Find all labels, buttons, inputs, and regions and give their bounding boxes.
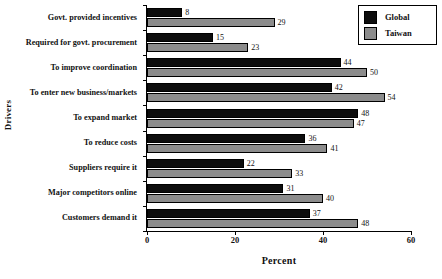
bar-value-label: 22: [247, 160, 255, 168]
bar-value-label: 48: [361, 220, 369, 228]
bar-taiwan: [147, 68, 367, 77]
bar-global: [147, 33, 213, 42]
y-axis-tick: [143, 55, 147, 56]
bar-value-label: 44: [344, 59, 352, 67]
category-label: Customers demand it: [0, 214, 137, 222]
y-axis-tick: [143, 105, 147, 106]
legend-label: Taiwan: [385, 29, 412, 38]
bar-global: [147, 209, 310, 218]
bar-value-label: 33: [295, 170, 303, 178]
bar-value-label: 47: [357, 120, 365, 128]
bar-value-label: 37: [313, 210, 321, 218]
chart-legend: GlobalTaiwan: [358, 5, 437, 45]
bar-chart: Drivers Govt. provided incentivesRequire…: [0, 0, 442, 279]
bar-taiwan: [147, 194, 323, 203]
bar-taiwan: [147, 93, 385, 102]
legend-label: Global: [385, 13, 410, 22]
bar-global: [147, 109, 358, 118]
bar-taiwan: [147, 169, 292, 178]
bar-value-label: 29: [278, 19, 286, 27]
legend-swatch-icon: [364, 27, 377, 40]
x-axis-title: Percent: [147, 255, 411, 266]
bar-taiwan: [147, 18, 275, 27]
bar-value-label: 31: [286, 185, 294, 193]
bar-value-label: 50: [370, 69, 378, 77]
y-axis-tick: [143, 5, 147, 6]
bar-global: [147, 58, 341, 67]
bar-value-label: 36: [308, 135, 316, 143]
bar-value-label: 23: [251, 44, 259, 52]
y-axis-tick: [143, 206, 147, 207]
bar-value-label: 40: [326, 195, 334, 203]
category-label: Govt. provided incentives: [0, 14, 137, 22]
bar-taiwan: [147, 219, 358, 228]
x-axis-tick-label: 60: [407, 236, 416, 245]
bar-taiwan: [147, 144, 327, 153]
bar-global: [147, 184, 283, 193]
category-axis-labels: Govt. provided incentivesRequired for go…: [0, 5, 144, 231]
bar-taiwan: [147, 43, 248, 52]
category-label: To improve coordination: [0, 64, 137, 72]
category-label: To expand market: [0, 114, 137, 122]
x-axis-tick-label: 40: [319, 236, 328, 245]
x-axis-tick-label: 0: [145, 236, 149, 245]
y-axis-tick: [143, 156, 147, 157]
bar-value-label: 8: [185, 9, 189, 17]
category-label: Major competitors online: [0, 189, 137, 197]
category-label: Suppliers require it: [0, 164, 137, 172]
bar-value-label: 48: [361, 110, 369, 118]
bar-value-label: 41: [330, 145, 338, 153]
x-axis-tick-label: 20: [231, 236, 240, 245]
x-axis: 0204060: [147, 231, 411, 247]
bar-value-label: 42: [335, 84, 343, 92]
category-label: To enter new business/markets: [0, 89, 137, 97]
y-axis-tick: [143, 181, 147, 182]
bar-global: [147, 83, 332, 92]
bar-value-label: 15: [216, 34, 224, 42]
category-label: To reduce costs: [0, 139, 137, 147]
bar-global: [147, 159, 244, 168]
bar-value-label: 54: [388, 94, 396, 102]
bar-taiwan: [147, 119, 354, 128]
bar-global: [147, 8, 182, 17]
legend-swatch-icon: [364, 11, 377, 24]
y-axis-tick: [143, 131, 147, 132]
bar-global: [147, 134, 305, 143]
y-axis-tick: [143, 30, 147, 31]
y-axis-tick: [143, 80, 147, 81]
category-label: Required for govt. procurement: [0, 39, 137, 47]
